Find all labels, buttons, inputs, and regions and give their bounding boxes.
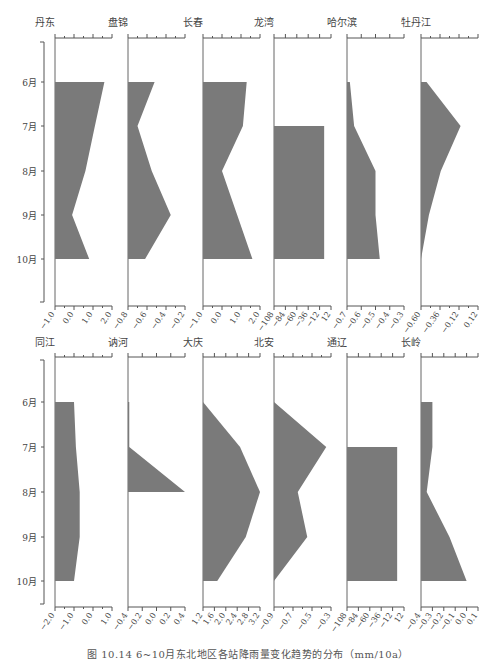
month-axis-bottom: 6月7月8月9月10月 xyxy=(17,360,44,604)
x-tick-label: −0.5 xyxy=(295,611,314,632)
x-tick-label: −0.6 xyxy=(130,310,149,331)
panel-title: 龙湾 xyxy=(254,16,274,28)
panel-title: 同江 xyxy=(35,337,55,348)
trend-area xyxy=(203,402,260,581)
month-tick-label: 9月 xyxy=(22,533,37,543)
x-tick-label: 0.0 xyxy=(209,310,224,326)
x-tick-label: −0.8 xyxy=(111,310,130,331)
x-tick-label: 12 xyxy=(392,611,405,625)
x-tick-label: 1.0 xyxy=(80,310,95,326)
panel-大庆: 大庆1.21.62.02.42.83.2 xyxy=(183,336,262,627)
trend-area xyxy=(128,82,171,259)
x-tick-label: −0.12 xyxy=(439,310,460,335)
month-tick-label: 10月 xyxy=(17,577,37,587)
panel-title: 长春 xyxy=(183,17,203,28)
panel-牡丹江: 牡丹江−0.60−0.36−0.120.12 xyxy=(401,16,480,335)
trend-area xyxy=(347,82,380,259)
figure-caption: 图 10.14 6~10月东北地区各站降雨量变化趋势的分布（mm/10a） xyxy=(0,646,496,661)
x-tick-label: 1.0 xyxy=(99,611,114,627)
panel-title: 丹东 xyxy=(35,16,55,28)
month-axis-top: 6月7月8月9月10月 xyxy=(17,42,44,302)
panel-通辽: 通辽−108−84−60−36−1212 xyxy=(327,337,406,634)
x-tick-label: −0.60 xyxy=(401,310,422,335)
trend-area xyxy=(203,82,252,259)
panel-title: 大庆 xyxy=(183,336,203,348)
x-tick-label: 0.12 xyxy=(462,310,480,330)
x-tick-label: 0.4 xyxy=(172,611,187,627)
x-tick-label: −0.36 xyxy=(420,310,441,335)
x-tick-label: −0.7 xyxy=(276,611,295,632)
x-tick-label: −0.2 xyxy=(168,310,187,331)
panel-title: 讷河 xyxy=(108,336,128,348)
x-tick-label: 2.0 xyxy=(99,310,114,326)
panel-同江: 同江−2.0−1.00.01.0 xyxy=(35,337,114,632)
x-tick-label: −0.9 xyxy=(257,611,276,632)
figure-canvas: 6月7月8月9月10月6月7月8月9月10月丹东−1.00.01.02.0盘锦−… xyxy=(0,0,496,665)
month-tick-label: 6月 xyxy=(22,78,37,88)
trend-area xyxy=(128,402,185,492)
trend-area xyxy=(274,402,326,581)
panel-title: 长岭 xyxy=(401,336,421,348)
panel-龙湾: 龙湾−108−84−60−36−1212 xyxy=(254,16,333,333)
trend-area xyxy=(347,447,397,581)
month-tick-label: 7月 xyxy=(22,122,37,132)
x-tick-label: 0.0 xyxy=(61,310,76,326)
panel-长春: 长春−1.00.01.02.0 xyxy=(183,17,262,331)
x-tick-label: −1.0 xyxy=(57,611,76,632)
x-tick-label: 0.0 xyxy=(143,611,158,627)
panel-title: 通辽 xyxy=(327,337,347,348)
panel-title: 哈尔滨 xyxy=(327,16,357,28)
x-tick-label: −12 xyxy=(377,611,394,630)
trend-area xyxy=(55,402,80,581)
month-tick-label: 8月 xyxy=(22,488,37,498)
panel-盘锦: 盘锦−0.8−0.6−0.4−0.2 xyxy=(108,16,187,331)
x-tick-label: 0.0 xyxy=(80,611,95,627)
x-tick-label: 1.0 xyxy=(228,310,243,326)
trend-area xyxy=(274,126,324,259)
x-tick-label: 0.2 xyxy=(158,611,173,627)
x-tick-label: −2.0 xyxy=(38,611,57,632)
x-tick-label: −12 xyxy=(304,310,321,329)
month-tick-label: 10月 xyxy=(17,255,37,265)
month-tick-label: 9月 xyxy=(22,211,37,221)
panel-丹东: 丹东−1.00.01.02.0 xyxy=(35,16,114,331)
panel-北安: 北安−0.9−0.7−0.5−0.3 xyxy=(254,336,333,632)
x-tick-label: −0.4 xyxy=(149,310,168,331)
panel-title: 北安 xyxy=(254,336,274,348)
month-tick-label: 6月 xyxy=(22,398,37,408)
month-tick-label: 7月 xyxy=(22,443,37,453)
panel-哈尔滨: 哈尔滨−0.7−0.6−0.5−0.4−0.3 xyxy=(327,16,406,331)
x-tick-label: 12 xyxy=(319,310,332,324)
month-tick-label: 8月 xyxy=(22,167,37,177)
x-tick-label: −1.0 xyxy=(38,310,57,331)
x-tick-label: 0.1 xyxy=(465,611,480,627)
trend-area xyxy=(421,82,461,259)
x-tick-label: −0.2 xyxy=(125,611,144,632)
x-tick-label: −1.0 xyxy=(186,310,205,331)
panel-讷河: 讷河−0.4−0.20.00.20.4 xyxy=(108,336,187,632)
panel-长岭: 长岭−0.4−0.3−0.2−0.10.00.1 xyxy=(401,336,480,632)
panel-title: 盘锦 xyxy=(108,16,128,28)
panel-title: 牡丹江 xyxy=(401,16,431,28)
trend-area xyxy=(421,402,467,581)
trend-area xyxy=(55,82,104,259)
